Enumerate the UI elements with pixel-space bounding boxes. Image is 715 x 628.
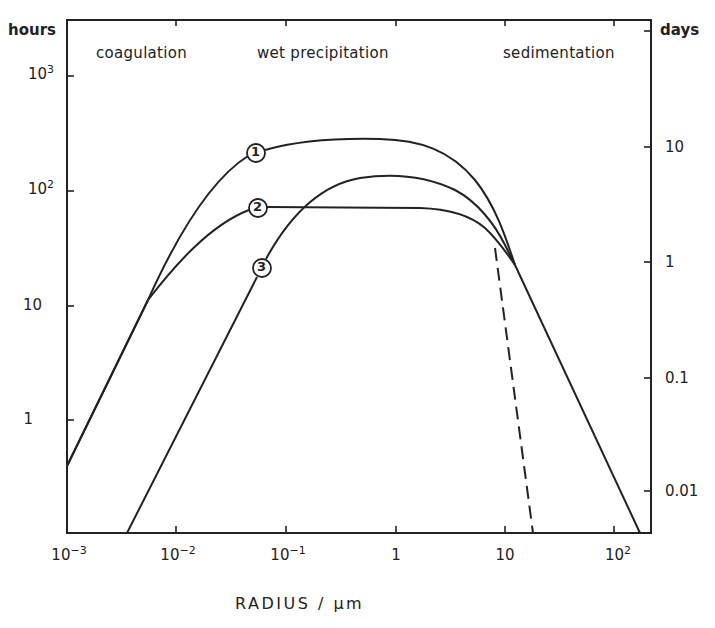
y-tick-right-10: 10 [665, 138, 684, 156]
chart-canvas [0, 0, 715, 628]
x-tick-1: 1 [366, 546, 426, 564]
region-sedimentation: sedimentation [503, 44, 615, 62]
y-tick-right-1: 1 [665, 253, 675, 271]
plot-frame [67, 20, 651, 533]
x-tick-0.01: 10−2 [148, 546, 208, 564]
curve-label-2: 2 [253, 199, 262, 214]
right-axis-unit: days [660, 21, 699, 39]
y-tick-right-0.1: 0.1 [665, 369, 689, 387]
region-coagulation: coagulation [96, 44, 187, 62]
x-tick-10: 10 [475, 546, 535, 564]
x-tick-0.001: 10−3 [39, 546, 99, 564]
y-tick-left-1: 1 [0, 410, 33, 428]
x-axis-label: RADIUS / µm [235, 594, 364, 613]
y-tick-right-0.01: 0.01 [665, 482, 698, 500]
y-ticks-right [644, 31, 651, 491]
sedimentation-line [515, 265, 640, 533]
y-ticks-left [67, 76, 74, 420]
curve-label-1: 1 [251, 144, 260, 159]
x-tick-0.1: 10−1 [258, 546, 318, 564]
curve-label-3: 3 [257, 259, 266, 274]
y-tick-left-10: 10 [2, 296, 42, 314]
y-tick-left-1000: 103 [14, 65, 54, 83]
left-axis-unit: hours [8, 21, 56, 39]
curve-2 [67, 207, 515, 466]
x-tick-100: 102 [588, 546, 648, 564]
y-tick-left-100: 102 [14, 180, 54, 198]
region-wet-precipitation: wet precipitation [257, 44, 389, 62]
x-ticks [176, 20, 614, 533]
